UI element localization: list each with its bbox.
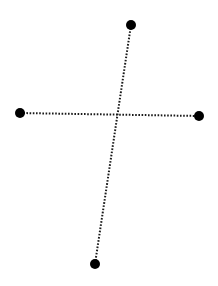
left-endpoint-dot (15, 108, 25, 118)
right-endpoint-dot (194, 111, 204, 121)
horizontal-dotted-line (20, 113, 199, 116)
dotted-segments (20, 25, 199, 264)
bottom-endpoint-dot (90, 259, 100, 269)
endpoint-dots (15, 20, 204, 269)
top-endpoint-dot (126, 20, 136, 30)
cross-diagram (0, 0, 218, 286)
vertical-dotted-line (95, 25, 131, 264)
